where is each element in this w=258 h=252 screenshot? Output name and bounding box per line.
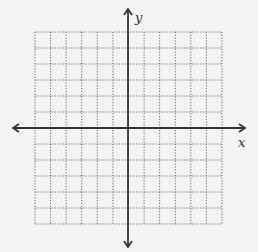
y-axis-label: y xyxy=(134,10,143,25)
x-axis-label: x xyxy=(238,135,246,150)
coordinate-plane: y x xyxy=(0,0,258,252)
